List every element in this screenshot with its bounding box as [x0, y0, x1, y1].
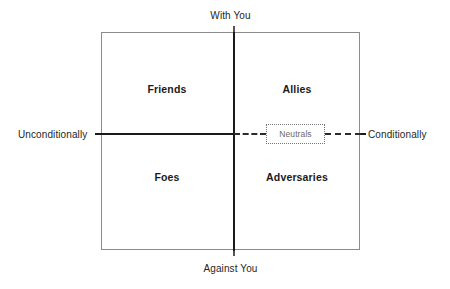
neutrals-label: Neutrals [279, 130, 311, 139]
quadrant-label-adversaries: Adversaries [234, 171, 360, 183]
axis-label-left: Unconditionally [18, 129, 87, 140]
quadrant-label-allies: Allies [234, 83, 360, 95]
axis-label-bottom: Against You [101, 263, 360, 274]
horizontal-axis-solid-left [101, 133, 234, 135]
axis-label-top: With You [101, 10, 360, 21]
quadrant-label-foes: Foes [101, 171, 233, 183]
axis-label-right: Conditionally [368, 129, 427, 140]
horizontal-axis-dashed-inner [234, 133, 266, 135]
horizontal-axis-dashed-outer [325, 133, 361, 135]
neutrals-marker: Neutrals [266, 124, 325, 144]
quadrant-label-friends: Friends [101, 83, 233, 95]
diagram-canvas: With You Against You Unconditionally Con… [0, 0, 450, 289]
vertical-axis [233, 32, 235, 251]
